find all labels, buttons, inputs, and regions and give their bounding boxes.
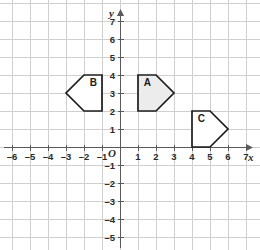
shape-label-c: C — [198, 113, 205, 124]
y-tick-label: –4 — [104, 214, 115, 225]
y-tick-label: 4 — [110, 70, 116, 81]
x-tick-label: –3 — [61, 151, 72, 162]
x-tick-label: –5 — [25, 151, 36, 162]
x-tick-label: –4 — [43, 151, 54, 162]
x-tick-label: 1 — [135, 151, 141, 162]
y-tick-label: –3 — [104, 196, 115, 207]
x-axis-label: x — [247, 151, 254, 163]
coordinate-grid-svg: –6–5–4–3–2–11234567–5–4–3–2–11234567O AB… — [0, 0, 260, 250]
origin-label: O — [108, 147, 116, 159]
y-tick-label: 5 — [110, 52, 116, 63]
y-tick-label: 2 — [110, 106, 115, 117]
y-tick-label: –1 — [104, 160, 115, 171]
y-tick-label: –5 — [104, 232, 115, 243]
y-tick-label: 3 — [110, 88, 115, 99]
shape-label-b: B — [90, 77, 97, 88]
y-axis-label: y — [107, 7, 114, 19]
x-tick-label: 3 — [171, 151, 176, 162]
x-tick-label: –2 — [79, 151, 90, 162]
shape-label-a: A — [144, 77, 151, 88]
x-tick-label: 5 — [207, 151, 213, 162]
x-tick-label: 4 — [189, 151, 195, 162]
y-tick-label: 6 — [110, 34, 115, 45]
x-tick-label: 2 — [153, 151, 158, 162]
y-tick-label: 1 — [110, 124, 116, 135]
x-tick-label: 6 — [225, 151, 230, 162]
y-tick-label: –2 — [104, 178, 115, 189]
x-tick-label: –6 — [7, 151, 18, 162]
coordinate-plane-figure: –6–5–4–3–2–11234567–5–4–3–2–11234567O AB… — [0, 0, 260, 250]
